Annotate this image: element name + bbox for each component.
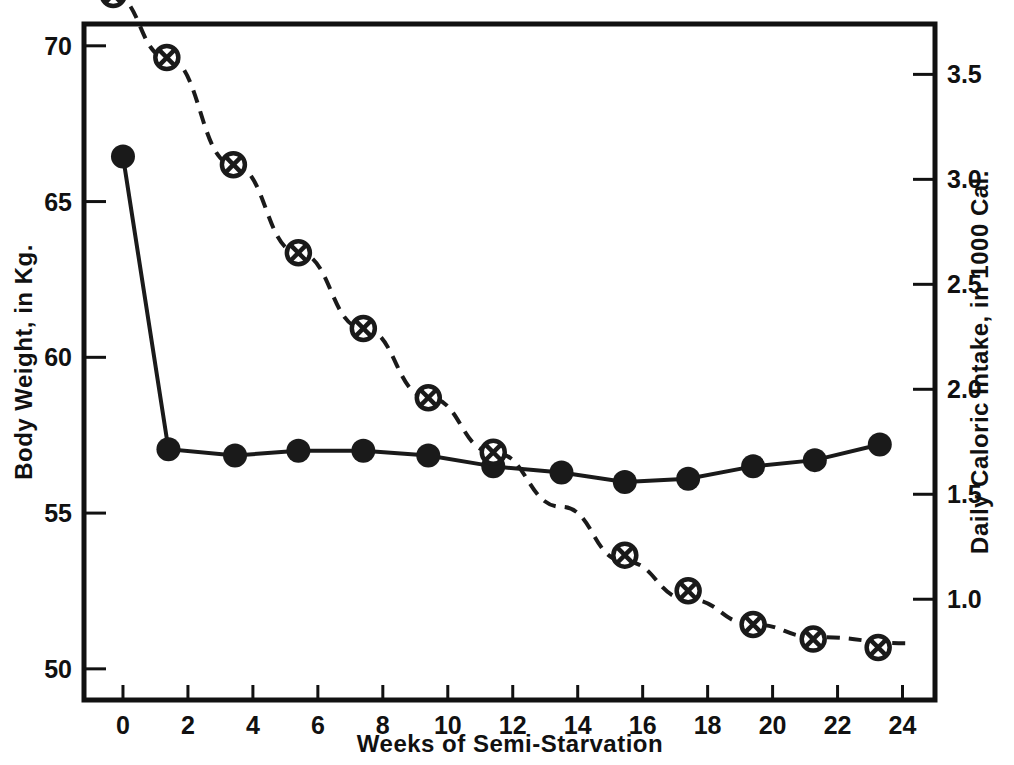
y-tick-label: 65: [44, 188, 72, 216]
series-line: [113, 0, 909, 643]
y2-tick-label: 3.5: [947, 60, 982, 88]
x-tick-label: 6: [311, 711, 325, 739]
x-tick-label: 2: [181, 711, 195, 739]
y-axis-left-label: Body Weight, in Kg.: [10, 244, 37, 480]
chart-figure: 024681012141618202224 5055606570 1.01.52…: [0, 0, 1014, 765]
data-point: [416, 443, 440, 467]
y-tick-label: 55: [44, 499, 72, 527]
x-tick-label: 22: [824, 711, 852, 739]
x-tick-label: 20: [759, 711, 787, 739]
chart-canvas: 024681012141618202224 5055606570 1.01.52…: [0, 0, 1014, 765]
x-tick-label: 4: [246, 711, 260, 739]
data-point: [741, 454, 765, 478]
series-line: [123, 156, 880, 482]
series-daily-caloric-intake: [102, 0, 909, 659]
x-tick-label: 0: [116, 711, 130, 739]
data-point: [156, 437, 180, 461]
y2-tick-label: 1.0: [947, 585, 982, 613]
x-tick-label: 24: [889, 711, 917, 739]
y-tick-label: 60: [44, 343, 72, 371]
data-point: [676, 467, 700, 491]
data-point: [286, 439, 310, 463]
data-point: [351, 439, 375, 463]
y-tick-label: 50: [44, 655, 72, 683]
y-axis-right-label: Daily Caloric Intake, in 1000 Cal.: [966, 170, 993, 554]
x-tick-label: 18: [694, 711, 722, 739]
data-point: [223, 443, 247, 467]
x-axis-label: Weeks of Semi-Starvation: [357, 730, 663, 757]
y-axis-left-ticks: 5055606570: [44, 32, 106, 683]
data-point: [613, 470, 637, 494]
data-series-group: [102, 0, 909, 659]
plot-frame: [84, 24, 935, 700]
data-point: [549, 461, 573, 485]
y-tick-label: 70: [44, 32, 72, 60]
data-point: [803, 448, 827, 472]
data-point: [111, 144, 135, 168]
data-point: [868, 433, 892, 457]
